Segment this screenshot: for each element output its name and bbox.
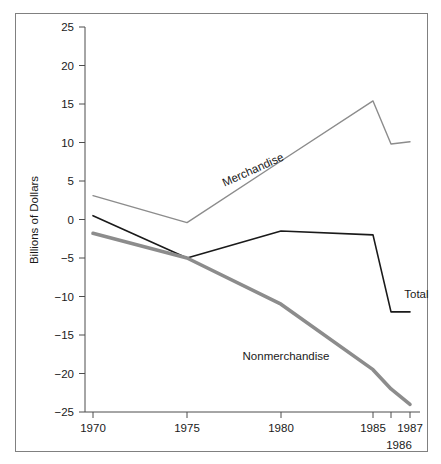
x-tick-label: 1987: [397, 422, 423, 434]
x-tick-label: 1985: [360, 422, 386, 434]
x-axis-ticks: [93, 412, 410, 418]
y-axis-tick-labels: 2520151050−5−10−15−20−25: [54, 21, 74, 418]
y-tick-label: 0: [68, 214, 74, 226]
x-tick-label: 1975: [174, 422, 200, 434]
y-tick-label: −15: [54, 329, 74, 341]
series-line-nonmerchandise: [93, 233, 410, 404]
x-tick-label: 1986: [386, 439, 412, 451]
y-tick-label: 10: [61, 137, 74, 149]
y-tick-label: 15: [61, 98, 74, 110]
y-tick-label: 25: [61, 21, 74, 33]
y-axis-title: Billions of Dollars: [28, 176, 40, 264]
line-chart: 2520151050−5−10−15−20−25 197019751980198…: [0, 0, 441, 464]
y-tick-label: −5: [61, 252, 74, 264]
x-axis-tick-labels: 197019751980198519871986: [80, 422, 423, 451]
x-tick-label: 1970: [80, 422, 106, 434]
x-tick-label: 1980: [268, 422, 294, 434]
y-tick-label: 20: [61, 60, 74, 72]
y-tick-label: −10: [54, 291, 74, 303]
y-axis-ticks: [79, 27, 85, 412]
y-tick-label: 5: [68, 175, 74, 187]
series-line-total: [93, 216, 410, 312]
y-tick-label: −20: [54, 368, 74, 380]
series-line-merchandise: [93, 101, 410, 223]
series-label-merchandise: Merchandise: [220, 151, 285, 189]
series-label-nonmerchandise: Nonmerchandise: [243, 350, 330, 362]
series-annotations: MerchandiseNonmerchandiseTotal: [220, 151, 428, 362]
y-tick-label: −25: [54, 406, 74, 418]
series-label-total: Total: [404, 288, 428, 300]
